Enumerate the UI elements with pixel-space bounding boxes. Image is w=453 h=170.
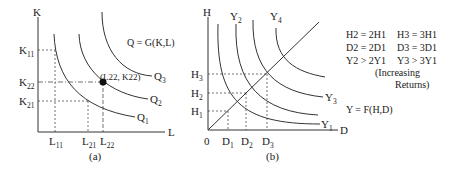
caption-b: (b) [266,150,279,163]
relation-h3: H3 = 3H1 [397,29,437,40]
l-axis-label: L [168,126,175,138]
label-y1: Y1 [321,118,333,133]
annotations: H2 = 2H1 H3 = 3H1 D2 = 2D1 D3 = 3D1 Y2 >… [346,29,437,116]
point-label: (L22, K22) [100,72,141,82]
tick-h2: H2 [191,87,203,102]
relation-y2: Y2 > 2Y1 [346,55,386,66]
caption-a: (a) [89,150,102,163]
label-q1: Q1 [137,111,149,126]
label-q2: Q2 [150,93,162,108]
relation-d2: D2 = 2D1 [346,42,386,53]
tick-k11: K11 [19,44,34,59]
panel-a: K L K11 K22 K21 L11 L21 L22 Q1 Q2 Q3 Q =… [19,6,175,163]
tick-l22: L22 [100,135,114,150]
note-line2: Returns) [395,79,429,91]
tick-d3: D3 [262,135,274,150]
label-q3: Q3 [154,70,166,85]
relation-d3: D3 = 3D1 [397,42,437,53]
note-line1: (Increasing [375,67,420,79]
relation-h2: H2 = 2H1 [346,29,386,40]
isoquant-y4 [276,28,325,77]
tick-h1: H1 [191,105,203,120]
diagram-canvas: K L K11 K22 K21 L11 L21 L22 Q1 Q2 Q3 Q =… [0,0,453,170]
h-axis-label: H [203,6,211,18]
tick-h3: H3 [191,68,203,83]
panel-b: H D 0 H3 H2 H1 D1 D2 D3 Y1 Y2 Y3 Y4 (b) [191,6,348,163]
tick-k21: K21 [19,95,35,110]
tick-l21: L21 [82,135,96,150]
origin-label: 0 [204,135,210,147]
function-label-a: Q = G(K,L) [127,37,175,49]
label-y3: Y3 [325,91,337,106]
k-axis-label: K [33,6,41,18]
label-y2: Y2 [230,10,242,25]
d-axis-label: D [340,124,348,136]
isoquant-y2 [236,24,318,115]
tick-l11: L11 [49,135,63,150]
tick-k22: K22 [19,76,35,91]
relation-y3: Y3 > 3Y1 [397,55,437,66]
isoquant-y3 [253,20,323,97]
function-label-b: Y = F(H,D) [346,104,393,116]
label-y4: Y4 [270,10,282,25]
tick-d2: D2 [241,135,253,150]
tick-d1: D1 [222,135,234,150]
